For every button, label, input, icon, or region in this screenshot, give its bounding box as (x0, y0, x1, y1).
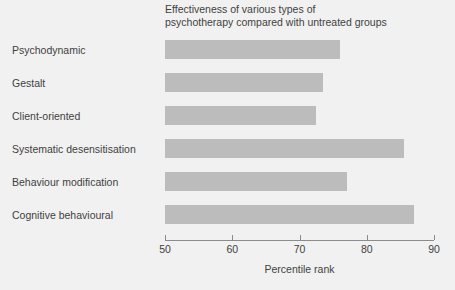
x-axis-tick-label-70: 70 (294, 243, 306, 255)
category-label-cognitive-behavioural: Cognitive behavioural (12, 209, 162, 221)
category-label-systematic-desensitisation: Systematic desensitisation (12, 143, 162, 155)
bar-behaviour-modification (165, 172, 347, 191)
x-axis-tick-label-90: 90 (428, 243, 440, 255)
x-axis-tick-90 (434, 235, 435, 240)
bar-systematic-desensitisation (165, 139, 404, 158)
category-label-client-oriented: Client-oriented (12, 110, 162, 122)
category-label-gestalt: Gestalt (12, 77, 162, 89)
bar-psychodynamic (165, 40, 340, 59)
x-axis-line (165, 240, 434, 241)
bar-chart-figure: Effectiveness of various types of psycho… (0, 0, 455, 290)
x-axis-tick-60 (232, 235, 233, 240)
category-label-psychodynamic: Psychodynamic (12, 44, 162, 56)
bar-client-oriented (165, 106, 316, 125)
x-axis-tick-70 (300, 235, 301, 240)
x-axis-tick-label-60: 60 (226, 243, 238, 255)
plot-area (165, 36, 434, 240)
x-axis-tick-label-80: 80 (361, 243, 373, 255)
x-axis-title: Percentile rank (165, 263, 434, 275)
category-label-behaviour-modification: Behaviour modification (12, 176, 162, 188)
x-axis-tick-label-50: 50 (159, 243, 171, 255)
bar-cognitive-behavioural (165, 205, 414, 224)
x-axis-tick-50 (165, 235, 166, 240)
x-axis-tick-80 (367, 235, 368, 240)
bar-gestalt (165, 73, 323, 92)
chart-title: Effectiveness of various types of psycho… (165, 3, 450, 29)
